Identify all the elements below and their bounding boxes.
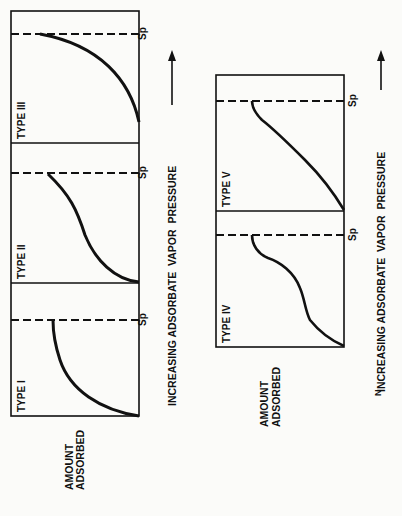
panel-type-ii: TYPE II <box>11 173 139 282</box>
sp-label: Sp <box>347 228 358 241</box>
sp-label: Sp <box>137 166 148 179</box>
isotherm-strip-2: TYPE V TYPE IV Sp Sp AMOUNT ADSORBED INC… <box>216 50 387 427</box>
y-axis-label-line2: ADSORBED <box>270 366 282 427</box>
arrow-up-icon <box>377 50 385 90</box>
isotherm-curve-type-iv <box>252 235 344 346</box>
type-label: TYPE V <box>221 171 232 207</box>
panel-type-iv: TYPE IV <box>216 235 344 346</box>
sp-label: Sp <box>347 94 358 107</box>
panel-type-v: TYPE V <box>216 101 344 210</box>
panel-type-i: TYPE I <box>11 320 139 416</box>
strip-1-frame <box>11 11 139 416</box>
x-axis-label: INCREASING ADSORBATE VAPOR PRESSURE <box>375 152 387 392</box>
type-label: TYPE I <box>16 380 27 412</box>
caption-fragment: N <box>373 390 383 397</box>
isotherm-curve-type-iii <box>40 34 139 122</box>
type-label: TYPE III <box>16 102 27 139</box>
isotherm-curve-type-i <box>53 320 139 416</box>
y-axis-label-line2: ADSORBED <box>74 429 86 490</box>
panel-type-iii: TYPE III <box>11 34 139 139</box>
sp-label: Sp <box>137 27 148 40</box>
x-axis-label: INCREASING ADSORBATE VAPOR PRESSURE <box>166 166 178 406</box>
type-label: TYPE II <box>16 244 27 279</box>
type-label: TYPE IV <box>221 304 232 343</box>
sp-label: Sp <box>137 313 148 326</box>
y-axis-label-line1: AMOUNT <box>258 380 270 427</box>
isotherm-curve-type-ii <box>48 174 139 282</box>
isotherm-strip-1: TYPE III TYPE II TYPE I Sp Sp Sp AMOUNT … <box>11 11 178 490</box>
isotherm-curve-type-v <box>252 101 344 210</box>
arrow-up-icon <box>168 50 176 105</box>
adsorption-isotherm-diagram: TYPE III TYPE II TYPE I Sp Sp Sp AMOUNT … <box>0 0 402 516</box>
